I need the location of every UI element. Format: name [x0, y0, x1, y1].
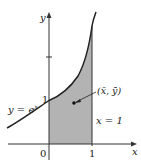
y-tick-one-label: 1	[42, 94, 48, 105]
y-axis-label: y	[39, 12, 46, 23]
centroid-label: (x̄, ȳ)	[97, 85, 121, 96]
x-axis-label: x	[132, 146, 138, 157]
curve-label: y = ex	[7, 103, 38, 115]
diagram-canvas: y x 0 1 1 y = ex (x̄, ȳ) x = 1	[0, 0, 141, 168]
y-axis-arrow-icon	[47, 12, 52, 18]
centroid-point	[72, 101, 76, 105]
x-tick-one-label: 1	[89, 148, 95, 159]
origin-label: 0	[40, 148, 46, 159]
vertical-line-label: x = 1	[96, 115, 123, 126]
